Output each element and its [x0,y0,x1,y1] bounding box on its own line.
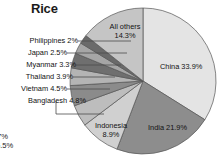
slice-label-all-others: All others 14.3% [98,23,152,40]
clipped-fragment-top: 7% [0,132,8,141]
chart-figure: Rice All others 14.3% China 33.9% India … [0,0,217,163]
slice-label-india: India 21.9% [148,124,187,133]
external-label-thailand: Thailand 3.9% [6,72,73,81]
external-label-japan: Japan 2.5% [6,48,67,57]
slice-label-indonesia-value: 8.9% [88,131,134,140]
slice-label-all-others-value: 14.3% [98,32,152,41]
external-label-myanmar: Myanmar 3.3% [6,60,76,69]
external-label-philippines: Philippines 2% [6,36,78,45]
clipped-fragment-bottom: 5.5% [0,141,13,150]
slice-label-china: China 33.9% [160,63,202,72]
slice-label-indonesia: Indonesia 8.9% [88,122,134,139]
external-label-vietnam: Vietnam 4.5% [6,84,67,93]
external-label-bangladesh: Bangladesh 4.8% [6,96,86,105]
